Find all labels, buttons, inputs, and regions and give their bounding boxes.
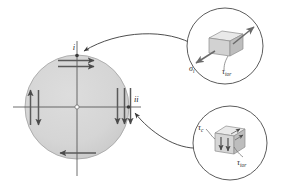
callout-circle-top: σi τtor <box>187 8 263 84</box>
figure-container: i ii σi τtor <box>0 0 283 190</box>
disc-center-marker <box>75 105 79 109</box>
point-i-label: i <box>73 42 76 52</box>
cube-front-face-ii <box>215 133 234 154</box>
point-ii-label: ii <box>134 94 139 104</box>
tau-tor-subscript-ii: tor <box>240 162 247 168</box>
leader-arrow-top <box>84 34 196 51</box>
callout-circle-bottom: τc τtor <box>193 106 267 180</box>
engineering-diagram: i ii σi τtor <box>0 0 283 190</box>
point-i-marker <box>75 54 79 58</box>
point-ii-marker <box>127 105 131 109</box>
leader-arrow-bottom <box>135 113 200 148</box>
shaft-cross-section-group: i ii <box>13 41 141 176</box>
tau-tor-subscript-i: tor <box>225 71 232 77</box>
